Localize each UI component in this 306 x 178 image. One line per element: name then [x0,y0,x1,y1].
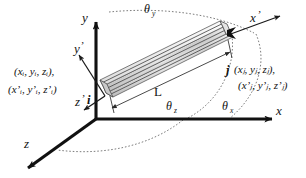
node-j-global-coords: (xⱼ, yⱼ, zⱼ), [234,63,275,76]
beam-element [100,21,233,97]
theta-x-label: θ x [222,99,234,115]
node-i-global-coords: (xᵢ, yᵢ, zᵢ), [14,65,55,78]
figure-canvas: y x z y ’ z ’ x ’ i (xᵢ, yᵢ, zᵢ), (x’ᵢ, … [0,0,306,178]
arc-theta-x [229,34,261,119]
theta-z-label: θ z [166,99,177,115]
theta-y-subscript: y [151,9,156,18]
theta-y-symbol: θ [144,2,150,16]
x-prime-label: x ’ [249,8,261,25]
node-i-local-coords: (x’ᵢ, y’ᵢ, z’ᵢ) [8,83,57,96]
x-prime-letter: x [249,10,256,25]
node-j-local-coords: (x’ⱼ, y’ⱼ, z’ⱼ) [238,79,288,92]
global-axes [28,22,272,168]
z-prime-letter: z [74,94,80,109]
theta-x-symbol: θ [222,99,228,113]
z-prime-label: z ’ [74,92,85,109]
y-prime-letter: y [72,41,80,56]
dim-tick-i [110,96,114,113]
y-prime-mark: ’ [80,39,84,51]
y-axis-label: y [80,10,88,25]
theta-z-subscript: z [173,106,177,115]
y-prime-label: y ’ [72,39,84,56]
theta-x-subscript: x [229,106,234,115]
y-prime-line [79,55,105,96]
x-prime-mark: ’ [257,8,261,20]
z-axis-line [28,119,96,168]
arc-z-projection [57,120,183,152]
node-j-label: j [224,63,230,77]
z-axis-label: z [23,136,29,151]
node-i-label: i [87,93,91,107]
z-prime-mark: ’ [81,92,85,104]
theta-z-symbol: θ [166,99,172,113]
space-frame-diagram: y x z y ’ z ’ x ’ i (xᵢ, yᵢ, zᵢ), (x’ᵢ, … [0,0,306,178]
dim-tick-j [228,40,232,58]
length-label: L [154,84,162,99]
theta-y-label: θ y [144,2,156,18]
x-axis-label: x [275,103,282,118]
